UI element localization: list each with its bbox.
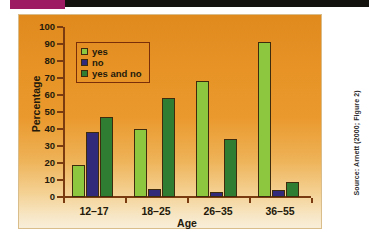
legend-label: no	[92, 57, 104, 68]
x-tick-label: 18–25	[126, 205, 186, 217]
y-tick-label: 60	[29, 90, 55, 99]
bar	[100, 117, 113, 197]
plot-area: Percentage 0102030405060708090100 12–171…	[18, 14, 322, 229]
y-tick-label: 40	[29, 124, 55, 133]
bar	[258, 42, 271, 197]
legend-item: no	[81, 57, 142, 68]
y-tick-label: 0	[29, 192, 55, 201]
bar	[162, 98, 175, 197]
y-tick-label: 10	[29, 175, 55, 184]
legend-item: yes and no	[81, 68, 142, 79]
bar	[210, 192, 223, 197]
y-tick-label: 90	[29, 39, 55, 48]
x-tick-label: 12–17	[64, 205, 124, 217]
bar	[272, 190, 285, 197]
y-tick-label: 100	[29, 22, 55, 31]
y-tick-label: 80	[29, 56, 55, 65]
bar	[86, 132, 99, 197]
legend-label: yes and no	[92, 68, 142, 79]
bar	[134, 129, 147, 197]
legend-label: yes	[92, 46, 108, 57]
x-tick-mark	[63, 198, 65, 203]
bar	[72, 165, 85, 197]
x-tick-mark	[187, 198, 189, 203]
bar	[224, 139, 237, 197]
y-axis-ticks: 0102030405060708090100	[19, 15, 55, 230]
source-credit: Source: Arnett (2000; Figure 2)	[353, 36, 360, 196]
magenta-accent-bar	[10, 0, 65, 9]
y-tick-label: 30	[29, 141, 55, 150]
x-tick-mark	[311, 198, 313, 203]
legend-swatch-icon	[81, 59, 88, 66]
bar	[148, 189, 161, 198]
y-tick-label: 70	[29, 73, 55, 82]
y-tick-label: 50	[29, 107, 55, 116]
bar	[286, 182, 299, 197]
figure-container: Percentage 0102030405060708090100 12–171…	[18, 14, 322, 229]
x-tick-label: 26–35	[188, 205, 248, 217]
legend-swatch-icon	[81, 48, 88, 55]
top-decorative-strip	[0, 0, 369, 11]
legend-swatch-icon	[81, 70, 88, 77]
x-tick-mark	[125, 198, 127, 203]
bar	[196, 81, 209, 197]
x-tick-mark	[249, 198, 251, 203]
chart-legend: yesnoyes and no	[76, 42, 150, 83]
x-tick-label: 36–55	[250, 205, 310, 217]
black-accent-bar	[65, 0, 369, 7]
legend-item: yes	[81, 46, 142, 57]
y-tick-label: 20	[29, 158, 55, 167]
x-axis-title: Age	[63, 217, 311, 229]
